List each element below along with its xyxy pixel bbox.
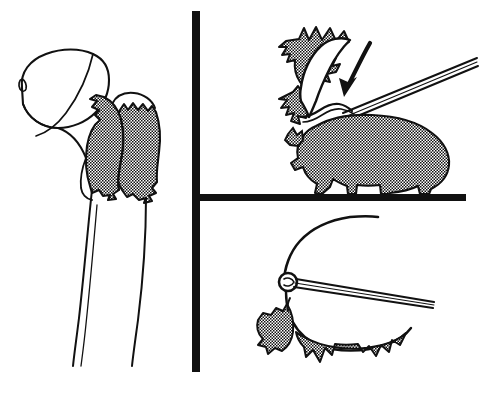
horizontal-divider (196, 194, 466, 201)
vertical-divider (192, 11, 200, 372)
medical-illustration (0, 0, 482, 394)
figure-canvas: Proximal femur lesion with surgical flap… (0, 0, 482, 394)
